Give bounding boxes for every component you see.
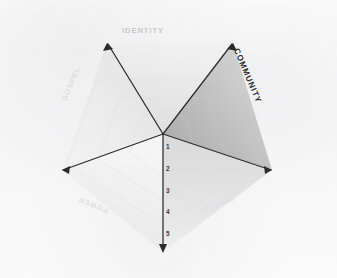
- radar-chart-figure: IDENTITY COMMUNITY GOSPEL POWER MISSION …: [0, 0, 337, 278]
- scale-tick-1: 1: [166, 144, 170, 150]
- scale-tick-5: 5: [166, 231, 170, 237]
- scale-tick-4: 4: [166, 209, 170, 215]
- scale-tick-2: 2: [166, 166, 170, 172]
- scale-tick-3: 3: [166, 188, 170, 194]
